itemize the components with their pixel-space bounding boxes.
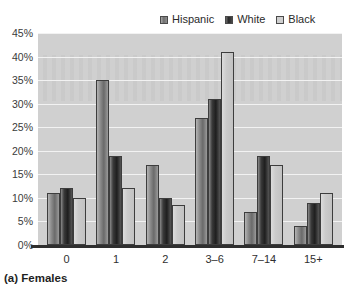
bar-hispanic[interactable] — [195, 118, 208, 245]
x-axis-tick-label: 15+ — [289, 250, 338, 268]
bar-black[interactable] — [172, 205, 185, 245]
bar-group — [239, 33, 288, 245]
bar-group — [141, 33, 190, 245]
bar-hispanic[interactable] — [96, 80, 109, 245]
legend-item-black[interactable]: Black — [276, 14, 315, 25]
bar-black[interactable] — [270, 165, 283, 245]
bar-black[interactable] — [320, 193, 333, 245]
bar-white[interactable] — [208, 99, 221, 245]
bar-group — [190, 33, 239, 245]
bar-hispanic[interactable] — [244, 212, 257, 245]
bar-white[interactable] — [109, 156, 122, 246]
legend-item-white[interactable]: White — [225, 14, 265, 25]
legend-swatch-icon — [225, 16, 233, 24]
x-axis-tick-label: 1 — [91, 250, 140, 268]
bar-hispanic[interactable] — [47, 193, 60, 245]
bar-black[interactable] — [122, 188, 135, 245]
bar-group — [91, 33, 140, 245]
y-axis-tick-label: 15% — [0, 168, 33, 180]
x-axis-tick-label: 2 — [141, 250, 190, 268]
x-axis-tick-label: 0 — [42, 250, 91, 268]
y-axis-tick-label: 45% — [0, 27, 33, 39]
y-axis-tick-label: 10% — [0, 192, 33, 204]
legend-swatch-icon — [160, 16, 168, 24]
legend-item-hispanic[interactable]: Hispanic — [160, 14, 214, 25]
y-axis-tick-label: 35% — [0, 74, 33, 86]
legend-swatch-icon — [276, 16, 284, 24]
y-axis-tick-label: 30% — [0, 98, 33, 110]
bar-groups — [38, 33, 342, 245]
bar-white[interactable] — [60, 188, 73, 245]
bar-black[interactable] — [221, 52, 234, 245]
bar-white[interactable] — [307, 203, 320, 245]
y-axis-tick-label: 40% — [0, 51, 33, 63]
x-axis-line — [31, 245, 344, 248]
bar-group — [289, 33, 338, 245]
legend-item-label: Black — [288, 14, 315, 25]
bar-group — [42, 33, 91, 245]
x-axis-tick-label: 7–14 — [239, 250, 288, 268]
y-axis-tick-label: 0% — [0, 239, 33, 251]
legend-item-label: Hispanic — [172, 14, 214, 25]
bar-black[interactable] — [73, 198, 86, 245]
y-axis-tick-label: 20% — [0, 145, 33, 157]
bar-hispanic[interactable] — [146, 165, 159, 245]
chart-legend: HispanicWhiteBlack — [160, 14, 315, 25]
y-axis-tick-label: 5% — [0, 215, 33, 227]
legend-item-label: White — [237, 14, 265, 25]
x-axis-labels: 0123–67–1415+ — [38, 250, 342, 268]
x-axis-tick-label: 3–6 — [190, 250, 239, 268]
bar-hispanic[interactable] — [294, 226, 307, 245]
bar-white[interactable] — [159, 198, 172, 245]
y-axis-tick-label: 25% — [0, 121, 33, 133]
bar-chart-figure: HispanicWhiteBlack 0%5%10%15%20%25%30%35… — [0, 0, 352, 293]
bar-white[interactable] — [257, 156, 270, 246]
figure-caption: (a) Females — [4, 272, 67, 284]
